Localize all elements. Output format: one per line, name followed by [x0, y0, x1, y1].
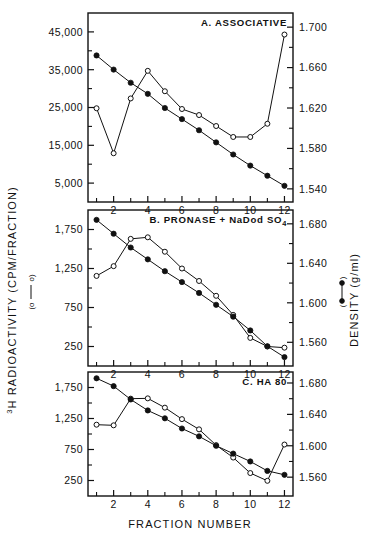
- series-line-open-A: [97, 35, 285, 154]
- data-point-filled-C-2: [111, 384, 116, 389]
- y-right-tick-label-B-1: 1.600: [299, 297, 327, 309]
- data-point-open-B-4: [145, 235, 150, 240]
- y-left-tick-label-A-4: 45,000: [48, 26, 83, 38]
- data-point-open-A-2: [111, 151, 116, 156]
- y-left-tick-label-A-3: 35,000: [48, 64, 83, 76]
- data-point-filled-B-9: [231, 314, 236, 319]
- data-point-filled-C-9: [231, 451, 236, 456]
- data-point-filled-B-2: [111, 231, 116, 236]
- x-tick-label-B-6: 6: [179, 368, 185, 380]
- data-point-filled-C-4: [145, 408, 150, 413]
- panel-title-B: B. PRONASE + NaDod SO4: [149, 214, 287, 228]
- plot-frame-A: [88, 13, 293, 202]
- y-left-tick-label-C-0: 250: [64, 474, 83, 486]
- data-point-open-C-4: [145, 396, 150, 401]
- y-right-tick-label-A-0: 1.540: [299, 183, 327, 195]
- data-point-open-A-10: [248, 134, 253, 139]
- y-left-tick-label-B-1: 750: [64, 301, 83, 313]
- series-line-open-C: [97, 398, 285, 480]
- panel-title-A: A. ASSOCIATIVE: [201, 17, 287, 28]
- legend-left-open-left: (o: [27, 302, 36, 310]
- data-point-open-B-7: [197, 278, 202, 283]
- data-point-open-B-3: [128, 236, 133, 241]
- data-point-filled-A-8: [214, 140, 219, 145]
- x-tick-label-C-4: 4: [145, 498, 151, 510]
- y-right-tick-label-B-2: 1.640: [299, 257, 327, 269]
- x-tick-label-C-12: 12: [278, 498, 290, 510]
- data-point-open-C-6: [179, 417, 184, 422]
- data-point-filled-C-1: [94, 376, 99, 381]
- x-tick-label-C-6: 6: [179, 498, 185, 510]
- data-point-filled-C-6: [179, 426, 184, 431]
- x-tick-label-B-4: 4: [145, 368, 151, 380]
- data-point-open-B-8: [214, 293, 219, 298]
- data-point-filled-C-3: [128, 397, 133, 402]
- data-point-filled-C-7: [196, 434, 201, 439]
- series-line-filled-C: [97, 378, 285, 475]
- data-point-filled-B-10: [248, 328, 253, 333]
- data-point-filled-A-7: [196, 128, 201, 133]
- y-right-tick-label-A-4: 1.700: [299, 21, 327, 33]
- data-point-filled-B-7: [196, 290, 201, 295]
- x-axis-title: FRACTION NUMBER: [128, 518, 251, 530]
- y-right-tick-label-C-1: 1.600: [299, 440, 327, 452]
- data-point-filled-A-2: [111, 67, 116, 72]
- y-left-tick-label-A-0: 5,000: [55, 177, 83, 189]
- data-point-filled-C-10: [248, 459, 253, 464]
- panel-B: 246810122507501,2501,7501.5601.6001.6401…: [55, 210, 328, 380]
- data-point-filled-B-8: [214, 302, 219, 307]
- panel-A: 246810125,00015,00025,00035,00045,0001.5…: [48, 13, 327, 216]
- data-point-open-A-12: [282, 32, 287, 37]
- data-point-open-A-9: [231, 134, 236, 139]
- legend-right-paren-left: (: [338, 304, 347, 307]
- x-tick-label-C-8: 8: [213, 498, 219, 510]
- data-point-filled-B-4: [145, 257, 150, 262]
- data-point-open-C-1: [94, 422, 99, 427]
- legend-right-dot-left: [340, 299, 345, 304]
- figure-root: 246810125,00015,00025,00035,00045,0001.5…: [0, 0, 368, 543]
- data-point-open-A-7: [197, 113, 202, 118]
- data-point-open-B-10: [248, 335, 253, 340]
- y-left-tick-label-A-2: 25,000: [48, 101, 83, 113]
- data-point-filled-A-5: [162, 105, 167, 110]
- panel-C: 246810122507501,2501,7501.5601.6001.6401…: [55, 372, 328, 510]
- y-left-tick-label-A-1: 15,000: [48, 139, 83, 151]
- data-point-filled-B-11: [265, 344, 270, 349]
- y-right-tick-label-A-3: 1.660: [299, 61, 327, 73]
- y-right-tick-label-A-2: 1.620: [299, 102, 327, 114]
- y-left-tick-label-B-2: 1,250: [55, 262, 83, 274]
- data-point-filled-A-11: [265, 173, 270, 178]
- data-point-filled-C-5: [162, 416, 167, 421]
- data-point-filled-C-12: [282, 472, 287, 477]
- data-point-open-B-6: [179, 266, 184, 271]
- data-point-filled-A-1: [94, 53, 99, 58]
- data-point-filled-A-9: [231, 152, 236, 157]
- y-axis-title-left: 3H RADIOACTIVITY (CPM/FRACTION): [5, 186, 18, 414]
- y-left-tick-label-B-0: 250: [64, 340, 83, 352]
- series-line-open-B: [97, 237, 285, 347]
- x-tick-label-B-8: 8: [213, 368, 219, 380]
- data-point-open-A-6: [179, 107, 184, 112]
- y-right-tick-label-B-0: 1.560: [299, 336, 327, 348]
- data-point-filled-B-5: [162, 269, 167, 274]
- data-point-open-B-12: [282, 345, 287, 350]
- legend-right-dot-right: [340, 281, 345, 286]
- data-point-open-C-7: [197, 427, 202, 432]
- x-tick-label-C-2: 2: [111, 498, 117, 510]
- data-point-filled-A-3: [128, 80, 133, 85]
- data-point-filled-B-1: [94, 217, 99, 222]
- y-axis-title-right: DENSITY (g/ml): [348, 253, 360, 347]
- data-point-filled-A-12: [282, 183, 287, 188]
- data-point-filled-A-4: [145, 91, 150, 96]
- data-point-open-C-5: [162, 405, 167, 410]
- y-right-tick-label-C-0: 1.560: [299, 471, 327, 483]
- data-point-open-B-5: [162, 249, 167, 254]
- data-point-filled-B-12: [282, 355, 287, 360]
- data-point-open-A-1: [94, 106, 99, 111]
- legend-left-open-right: o): [27, 274, 36, 281]
- data-point-open-A-3: [128, 96, 133, 101]
- legend-left: (oo): [27, 274, 36, 309]
- y-right-tick-label-C-3: 1.680: [299, 377, 327, 389]
- data-point-filled-C-8: [214, 443, 219, 448]
- y-left-tick-label-C-3: 1,750: [55, 381, 83, 393]
